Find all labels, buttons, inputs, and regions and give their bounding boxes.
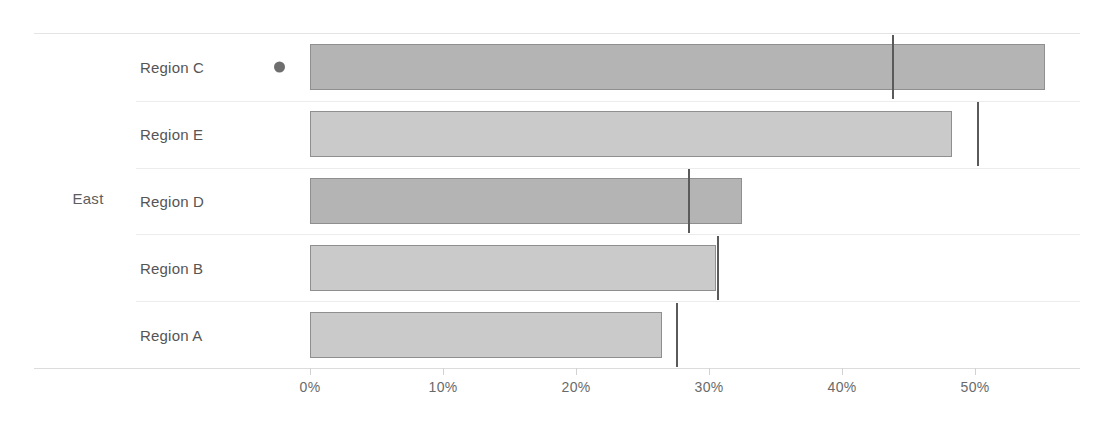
x-tick-label: 20% (562, 379, 591, 395)
selected-dot-icon[interactable] (274, 62, 285, 73)
x-tick-label: 30% (695, 379, 724, 395)
chart-row[interactable]: Region B (0, 234, 1112, 301)
row-label: Region E (140, 126, 252, 143)
row-label: Region B (140, 259, 252, 276)
row-label: Region C (140, 59, 252, 76)
row-separator (136, 301, 1080, 302)
chart-row[interactable]: Region D (0, 168, 1112, 235)
x-axis: 0%10%20%30%40%50% (0, 368, 1112, 408)
chart-row[interactable]: Region E (0, 101, 1112, 168)
reference-line (892, 35, 894, 99)
x-tick (310, 368, 311, 375)
x-tick (576, 368, 577, 375)
x-tick-label: 10% (429, 379, 458, 395)
x-tick-label: 50% (961, 379, 990, 395)
x-tick (975, 368, 976, 375)
reference-line (688, 169, 690, 233)
reference-line (717, 236, 719, 300)
row-label: Region D (140, 192, 252, 209)
x-tick-label: 0% (300, 379, 321, 395)
x-tick (709, 368, 710, 375)
plot-rows: Region CRegion ERegion DRegion BRegion A (0, 34, 1112, 368)
x-tick (842, 368, 843, 375)
reference-line (676, 303, 678, 367)
reference-line (977, 102, 979, 166)
x-tick (443, 368, 444, 375)
x-tick-label: 40% (828, 379, 857, 395)
bar[interactable] (310, 44, 1045, 90)
bullet-bar-chart: East Region CRegion ERegion DRegion BReg… (0, 0, 1112, 429)
chart-row[interactable]: Region A (0, 301, 1112, 368)
bar[interactable] (310, 312, 662, 358)
row-label: Region A (140, 326, 252, 343)
chart-row[interactable]: Region C (0, 34, 1112, 101)
row-separator (136, 101, 1080, 102)
row-separator (136, 168, 1080, 169)
row-separator (136, 234, 1080, 235)
bar[interactable] (310, 111, 952, 157)
bar[interactable] (310, 178, 742, 224)
bar[interactable] (310, 245, 716, 291)
